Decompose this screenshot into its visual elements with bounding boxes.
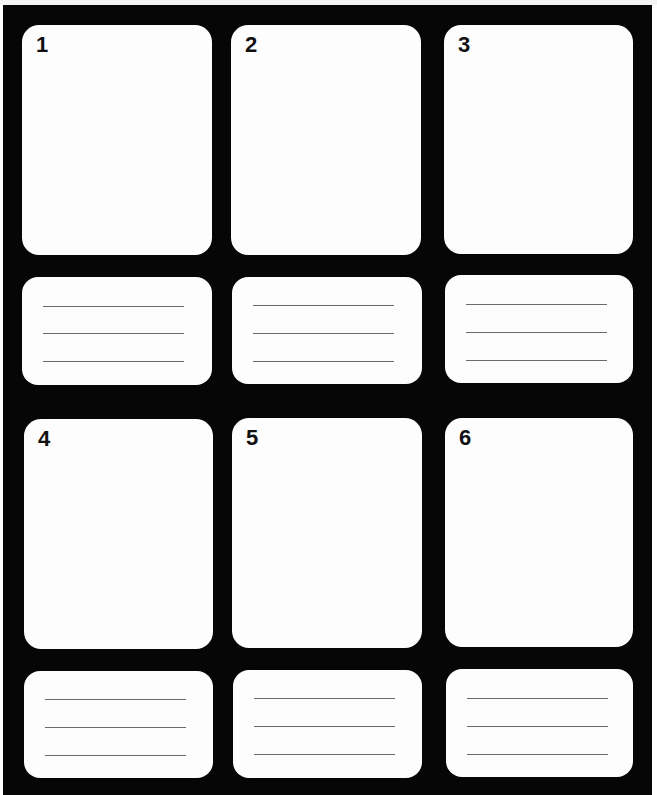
panel-number: 2 [245, 33, 257, 57]
caption-line [466, 360, 607, 361]
storyboard-panel-4[interactable]: 4 [24, 419, 213, 649]
panel-number: 3 [458, 33, 470, 57]
storyboard-panel-1[interactable]: 1 [22, 25, 212, 255]
caption-line [466, 304, 607, 305]
caption-line [254, 726, 395, 727]
caption-box-1[interactable] [22, 277, 212, 385]
panel-number: 4 [38, 427, 50, 451]
storyboard-panel-2[interactable]: 2 [231, 25, 421, 255]
storyboard-panel-5[interactable]: 5 [232, 418, 422, 648]
caption-line [43, 333, 184, 334]
caption-line [43, 361, 184, 362]
caption-line [467, 726, 608, 727]
caption-box-3[interactable] [445, 275, 633, 383]
caption-line [45, 699, 186, 700]
caption-line [254, 754, 395, 755]
caption-line [253, 361, 394, 362]
panel-number: 1 [36, 33, 48, 57]
caption-line [254, 698, 395, 699]
caption-box-4[interactable] [24, 671, 213, 778]
caption-line [253, 305, 394, 306]
caption-box-5[interactable] [233, 670, 422, 778]
caption-line [466, 332, 607, 333]
caption-line [45, 727, 186, 728]
caption-line [43, 306, 184, 307]
caption-box-6[interactable] [446, 669, 633, 777]
panel-number: 6 [459, 426, 471, 450]
storyboard-page: 1 2 3 4 5 6 [0, 0, 657, 795]
storyboard-panel-3[interactable]: 3 [444, 25, 633, 254]
panel-number: 5 [246, 426, 258, 450]
caption-line [467, 754, 608, 755]
caption-line [45, 755, 186, 756]
caption-box-2[interactable] [232, 277, 422, 384]
caption-line [253, 333, 394, 334]
caption-line [467, 698, 608, 699]
storyboard-panel-6[interactable]: 6 [445, 418, 633, 647]
